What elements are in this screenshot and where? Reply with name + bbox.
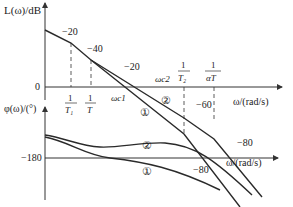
svg-text:T: T xyxy=(87,105,93,115)
phase-ylabel: φ(ω)/(°) xyxy=(4,103,36,115)
magnitude-curve-2 xyxy=(45,30,262,197)
t1-label: 1 T₁ xyxy=(65,93,77,115)
wc1-label: ωc1 xyxy=(111,93,126,103)
phase-slope-label: −80 xyxy=(193,164,209,175)
mag-curve-2-label: ② xyxy=(161,94,171,106)
t2-label: 1 T₂ xyxy=(178,60,190,83)
slope-label-6: −80 xyxy=(237,137,253,148)
svg-text:1: 1 xyxy=(211,60,216,70)
phase-xlabel: ω/(rad/s) xyxy=(226,157,261,169)
phase-curve-1-label: ① xyxy=(142,165,152,177)
svg-text:1: 1 xyxy=(181,60,186,70)
wc2-label: ωc2 xyxy=(155,74,170,84)
svg-text:1: 1 xyxy=(68,93,73,103)
minus-180-label: −180 xyxy=(21,152,42,163)
bode-diagram: L(ω)/dB ω/(rad/s) 0 1 T₁ 1 T 1 T₂ 1 αT xyxy=(0,0,293,207)
svg-text:T₂: T₂ xyxy=(178,73,186,83)
slope-label-1: −20 xyxy=(62,26,78,37)
slope-label-4: −60 xyxy=(196,99,212,110)
svg-text:αT: αT xyxy=(206,73,217,83)
slope-label-3: −20 xyxy=(124,61,140,72)
t-label: 1 T xyxy=(85,93,96,115)
at-label: 1 αT xyxy=(205,60,221,83)
svg-text:T₁: T₁ xyxy=(65,105,73,115)
phase-curve-2-label: ② xyxy=(142,139,152,151)
svg-text:1: 1 xyxy=(88,93,93,103)
mag-curve-1-label: ① xyxy=(140,106,150,118)
magnitude-xlabel: ω/(rad/s) xyxy=(233,96,268,108)
zero-label: 0 xyxy=(35,81,40,92)
slope-label-2: −40 xyxy=(87,43,103,54)
magnitude-ylabel: L(ω)/dB xyxy=(4,4,41,17)
